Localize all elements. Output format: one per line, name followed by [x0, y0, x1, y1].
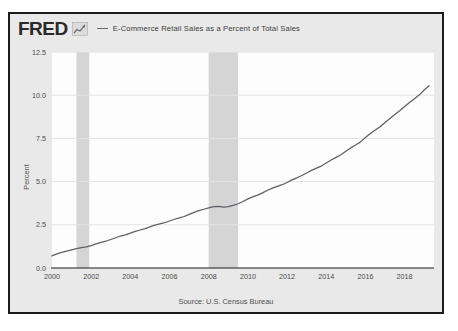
chart-legend: E-Commerce Retail Sales as a Percent of …: [97, 24, 300, 33]
x-axis-tick-label: 2018: [397, 272, 413, 281]
fred-chart-card: FRED E-Commerce Retail Sales as a Percen…: [8, 12, 444, 314]
line-chart-icon: [72, 22, 88, 36]
recession-band: [209, 52, 238, 268]
y-axis-tick-label: 10.0: [32, 91, 46, 100]
source-note: Source: U.S. Census Bureau: [10, 297, 442, 306]
y-axis-tick-label: 2.5: [36, 220, 46, 229]
y-axis-tick-label: 5.0: [36, 177, 46, 186]
fred-logo: FRED: [18, 19, 68, 38]
recession-band: [76, 52, 89, 268]
y-axis-tick-label: 7.5: [36, 134, 46, 143]
x-axis-tick-label: 2016: [357, 272, 373, 281]
legend-series-label: E-Commerce Retail Sales as a Percent of …: [113, 24, 300, 33]
chart-canvas: 12.510.07.55.02.50.020002002200420062008…: [10, 42, 442, 312]
plot-background: [52, 52, 434, 268]
x-axis-tick-label: 2004: [122, 272, 138, 281]
plot-area-wrapper: Percent 12.510.07.55.02.50.0200020022004…: [10, 42, 442, 312]
x-axis-tick-label: 2006: [162, 272, 178, 281]
y-axis-tick-label: 12.5: [32, 48, 46, 57]
x-axis-tick-label: 2010: [240, 272, 256, 281]
x-axis-tick-label: 2002: [83, 272, 99, 281]
x-axis-tick-label: 2008: [201, 272, 217, 281]
x-axis-tick-label: 2014: [318, 272, 334, 281]
x-axis-tick-label: 2000: [44, 272, 60, 281]
legend-line-icon: [97, 28, 108, 29]
x-axis-tick-label: 2012: [279, 272, 295, 281]
chart-header: FRED E-Commerce Retail Sales as a Percen…: [10, 14, 442, 42]
